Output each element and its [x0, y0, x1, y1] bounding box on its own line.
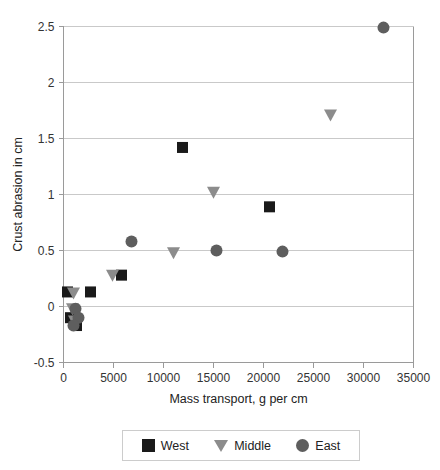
x-axis-tick-label: 30000	[347, 371, 381, 385]
plot-area: -0.500.511.522.5050001000015000200002500…	[0, 0, 440, 470]
circle-marker-icon	[296, 439, 309, 452]
data-point-west	[177, 142, 188, 153]
data-point-east	[68, 320, 80, 332]
y-axis-tick-label: 0	[48, 300, 55, 314]
y-axis-title: Crust abrasion in cm	[11, 137, 25, 252]
x-axis-tick-label: 20000	[247, 371, 281, 385]
data-point-middle	[207, 187, 220, 199]
y-axis-tick-label: -0.5	[34, 356, 55, 370]
x-axis-tick-label: 5000	[100, 371, 127, 385]
legend-label-west: West	[161, 439, 189, 453]
x-axis-tick-label: 25000	[297, 371, 331, 385]
x-axis-tick-label: 10000	[147, 371, 181, 385]
square-marker-icon	[142, 439, 155, 452]
legend-item-middle[interactable]: Middle	[214, 439, 271, 453]
y-axis-tick-label: 2.5	[38, 20, 55, 34]
x-axis-tick-label: 0	[60, 371, 67, 385]
data-point-west	[264, 201, 275, 212]
legend-item-west[interactable]: West	[142, 439, 189, 453]
chart-legend: West Middle East	[122, 430, 360, 461]
x-axis-title: Mass transport, g per cm	[169, 392, 307, 406]
data-point-middle	[324, 109, 337, 121]
legend-label-middle: Middle	[234, 439, 271, 453]
data-point-east	[277, 246, 289, 258]
scatter-chart: -0.500.511.522.5050001000015000200002500…	[0, 0, 440, 470]
x-axis-tick-label: 15000	[197, 371, 231, 385]
y-axis-tick-label: 1.5	[38, 132, 55, 146]
legend-label-east: East	[315, 439, 340, 453]
y-axis-tick-label: 2	[48, 76, 55, 90]
legend-item-east[interactable]: East	[296, 439, 340, 453]
y-axis-tick-label: 0.5	[38, 244, 55, 258]
data-point-east	[378, 22, 390, 34]
y-axis-tick-label: 1	[48, 188, 55, 202]
data-point-middle	[167, 247, 180, 259]
x-axis-tick-label: 35000	[397, 371, 431, 385]
data-point-east	[126, 236, 138, 248]
triangle-marker-icon	[214, 440, 228, 452]
data-point-east	[211, 245, 223, 257]
data-point-west	[85, 286, 96, 297]
